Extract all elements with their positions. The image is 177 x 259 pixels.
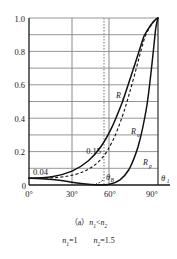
x-tick-label-90: 90°	[146, 189, 158, 199]
figure-caption-part: （a）n1<n2	[0, 216, 177, 229]
curve-label-ru-symbol: R	[130, 127, 136, 136]
value-n2-number: =1.5	[100, 236, 115, 245]
curve-label-ru-subscript: u	[137, 132, 140, 138]
caption-part-label: （a）	[70, 218, 90, 227]
annotation-0-04: 0.04	[33, 167, 49, 177]
x-axis-label-symbol: θ	[161, 173, 165, 183]
y-tick-label-1: 1.0	[14, 14, 25, 24]
caption-n2-subscript: 2	[105, 223, 108, 229]
curve-label-rp-subscript: p	[148, 163, 152, 169]
x-tick-label-0: 0°	[25, 189, 33, 199]
x-tick-label-30: 30°	[66, 189, 78, 199]
x-axis-label: θ 1	[161, 173, 170, 184]
y-tick-label-08: 0.8	[14, 47, 25, 57]
curve-label-rs-subscript: s	[122, 96, 124, 102]
y-tick-label-06: 0.6	[14, 80, 25, 90]
y-tick-label-02: 0.2	[14, 147, 25, 157]
x-tick-label-60: 60°	[104, 189, 116, 199]
x-axis-label-subscript: 1	[167, 178, 170, 184]
value-n1-number: =1	[69, 236, 78, 245]
annotation-0-15: 0.15	[86, 146, 101, 156]
figure-caption-values: n1=1n2=1.5	[0, 236, 177, 247]
y-tick-label-04: 0.4	[14, 114, 25, 124]
curve-label-rs-symbol: R	[115, 91, 121, 100]
fresnel-reflectance-figure: 1.0 0.8 0.6 0.4 0.2 0 0° 30° 60° 90° θ 1…	[0, 0, 177, 259]
curve-label-rp-symbol: R	[142, 158, 148, 167]
